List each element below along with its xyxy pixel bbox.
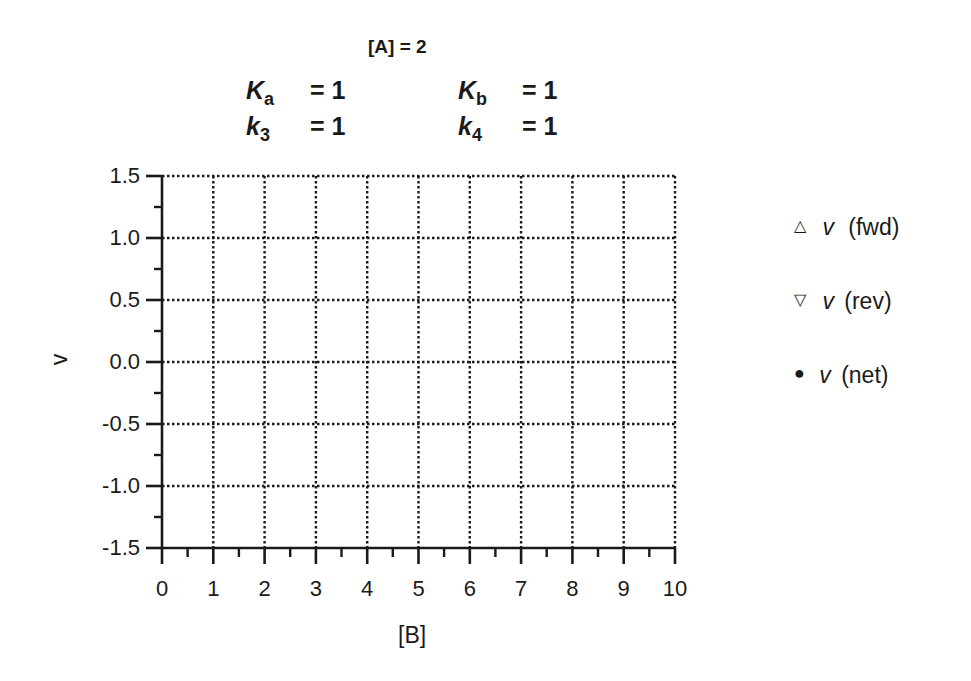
y-tick-label: -1.0 (50, 473, 140, 499)
axes (146, 175, 676, 564)
legend-var: v (822, 288, 834, 314)
x-tick-label: 6 (450, 576, 490, 602)
x-axis-title: [B] (398, 622, 426, 649)
legend-item-rev: ▽ v (rev) (794, 288, 892, 315)
x-tick-label: 2 (245, 576, 285, 602)
legend-label: (net) (841, 362, 888, 388)
x-tick-label: 1 (193, 576, 233, 602)
x-tick-label: 0 (142, 576, 182, 602)
y-tick-label: 0.5 (50, 287, 140, 313)
x-tick-label: 8 (552, 576, 592, 602)
x-tick-label: 10 (655, 576, 695, 602)
legend-label: (rev) (844, 288, 891, 314)
filled-circle-icon: ● (794, 363, 805, 383)
y-axis-title: v (46, 354, 73, 366)
triangle-up-icon: △ (794, 217, 806, 234)
triangle-down-icon: ▽ (794, 291, 806, 308)
legend-var: v (819, 362, 831, 388)
x-tick-label: 9 (604, 576, 644, 602)
legend-label: (fwd) (848, 214, 899, 240)
x-tick-label: 5 (399, 576, 439, 602)
legend-item-fwd: △ v (fwd) (794, 214, 899, 241)
y-tick-label: 1.5 (50, 163, 140, 189)
y-tick-label: -1.5 (50, 535, 140, 561)
y-tick-label: 1.0 (50, 225, 140, 251)
y-tick-label: -0.5 (50, 411, 140, 437)
x-tick-label: 3 (296, 576, 336, 602)
x-tick-label: 4 (347, 576, 387, 602)
grid-lines (162, 176, 675, 548)
x-tick-label: 7 (501, 576, 541, 602)
legend-var: v (822, 214, 834, 240)
legend-item-net: ● v (net) (794, 362, 888, 389)
